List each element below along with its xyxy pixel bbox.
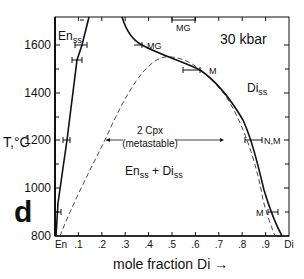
en-solvus-curve <box>56 17 89 236</box>
x-axis-title: mole fraction Di → <box>113 256 228 272</box>
x-tick-label: .3 <box>121 239 130 250</box>
y-ticks <box>55 45 289 212</box>
two-phase-field-label: Enss + Diss <box>125 164 183 180</box>
two-cpx-label: 2 Cpx <box>137 125 163 136</box>
mg-mid-label: MG <box>147 41 162 51</box>
x-tick-label: .7 <box>215 239 224 250</box>
x-tick-label: .6 <box>191 239 200 250</box>
x-tick-label: Di <box>284 239 293 250</box>
x-tick-label: .1 <box>74 239 83 250</box>
en-ss-label: Enss <box>58 29 82 45</box>
arrow-right-icon <box>220 138 224 142</box>
phase-diagram: 1600 1400 1200 1000 800 En .1 .2 .3 .4 .… <box>0 0 304 279</box>
x-tick-label: .5 <box>168 239 177 250</box>
y-tick-label: 1600 <box>24 38 51 52</box>
x-tick-label: .9 <box>261 239 270 250</box>
mg-top-label: MG <box>176 23 191 33</box>
metastable-label: (metastable) <box>122 138 178 149</box>
x-ticks <box>78 17 265 236</box>
x-tick-label: .2 <box>98 239 107 250</box>
di-ss-label: Diss <box>247 81 268 97</box>
y-tick-label: 1400 <box>24 86 51 100</box>
nm-label: N,M <box>264 136 281 146</box>
x-tick-label: .4 <box>144 239 153 250</box>
y-tick-label: 1000 <box>24 181 51 195</box>
plot-frame <box>55 17 289 236</box>
panel-label: d <box>14 195 32 228</box>
arrow-left-icon <box>106 138 110 142</box>
m-upper-label: M <box>209 66 217 76</box>
m-lower-label: M <box>256 208 264 218</box>
pressure-label: 30 kbar <box>220 31 267 47</box>
y-axis-title: T,°C <box>3 134 30 150</box>
x-tick-label: .8 <box>238 239 247 250</box>
y-tick-label: 800 <box>31 229 51 243</box>
x-tick-label: En <box>55 239 67 250</box>
